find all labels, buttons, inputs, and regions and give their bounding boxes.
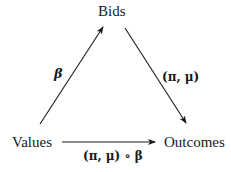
node-outcomes: Outcomes [164,135,225,150]
edge-label-pi-mu: (π, μ) [162,71,199,84]
arrow-values-to-bids [40,27,103,124]
node-values: Values [12,135,52,150]
edge-label-beta: β [54,67,63,80]
edge-label-composition: (π, μ) ∘ β [83,150,143,163]
node-bids: Bids [98,4,126,19]
